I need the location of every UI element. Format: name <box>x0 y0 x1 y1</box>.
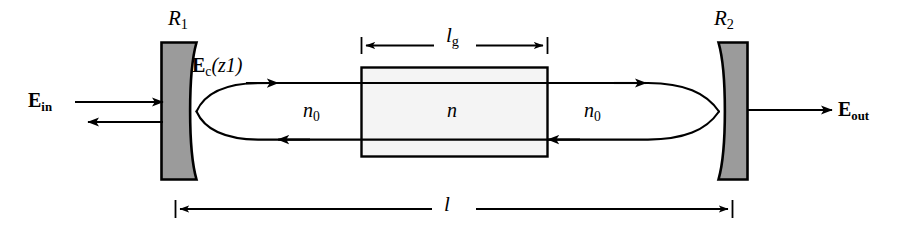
mirror-right-label-subscript: 2 <box>727 16 734 32</box>
cavity-field-label: Ec(z1) <box>192 55 243 78</box>
index-outside-right-label: n0 <box>584 100 601 123</box>
mirror-left-label-base: R <box>168 6 181 30</box>
mirror-right-label-base: R <box>714 6 727 30</box>
cavity-length-dimension <box>176 200 733 218</box>
index-outside-right-base: n <box>584 99 594 121</box>
mirror-left-label: R1 <box>168 8 188 31</box>
right-mirror-body <box>719 43 748 180</box>
index-outside-left-label: n0 <box>303 100 320 123</box>
input-field-label-subscript: in <box>41 100 52 114</box>
cavity-field-label-base: E <box>192 54 205 76</box>
optical-cavity-figure: R1 R2 Ec(z1) Ein Eout n0 n n0 lg l <box>0 0 912 234</box>
gain-length-subscript: g <box>452 33 459 49</box>
index-gain-label: n <box>447 100 457 123</box>
mirror-right-label: R2 <box>714 8 734 31</box>
index-outside-right-subscript: 0 <box>594 109 601 124</box>
input-field-label-base: E <box>28 89 41 111</box>
cavity-field-label-argument: (z1) <box>211 54 242 76</box>
cavity-length-base: l <box>444 192 450 216</box>
index-outside-left-base: n <box>303 99 313 121</box>
mirror-left-label-subscript: 1 <box>181 16 188 32</box>
gain-length-label: lg <box>446 25 459 48</box>
output-field-label-subscript: out <box>851 109 869 123</box>
output-field-label: Eout <box>838 99 869 122</box>
input-field-label: Ein <box>28 90 52 113</box>
output-field-label-base: E <box>838 98 851 120</box>
index-gain-base: n <box>447 99 457 121</box>
right-concave-mirror <box>719 43 748 180</box>
index-outside-left-subscript: 0 <box>313 109 320 124</box>
cavity-length-label: l <box>444 194 450 217</box>
